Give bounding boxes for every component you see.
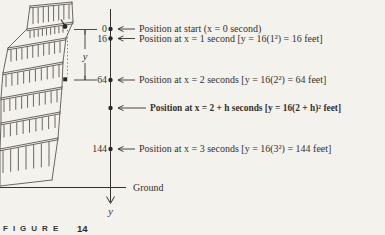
pointer-arrow-icon — [118, 36, 135, 41]
tower-stroke — [63, 38, 66, 62]
tower-stroke — [1, 114, 60, 125]
position-dot — [108, 106, 112, 110]
annotation-text: Position at x = 2 + h seconds [y = 16(2 … — [150, 103, 341, 114]
figure-caption-label: FIGURE — [3, 224, 63, 233]
tower-stroke — [60, 87, 62, 112]
tower-stroke — [3, 48, 8, 73]
tick-label: 16 — [97, 33, 107, 44]
position-dot — [108, 147, 112, 151]
y-axis-label: y — [107, 206, 113, 217]
pointer-arrow-icon — [118, 105, 146, 110]
position-dot — [108, 27, 112, 31]
fall-distance-label: y — [82, 51, 88, 62]
tower-stroke — [58, 112, 60, 138]
tower-stroke — [52, 138, 58, 180]
tower-stroke — [62, 62, 63, 87]
tower-stroke — [0, 180, 52, 186]
position-annotation-row: Position at x = 2 + h seconds [y = 16(2 … — [108, 103, 341, 114]
annotation-text: Position at x = 3 seconds [y = 16(3²) = … — [139, 143, 331, 155]
object-at-top-dot — [63, 24, 68, 29]
pointer-arrow-icon — [118, 26, 135, 31]
position-annotation-row: 64 Position at x = 2 seconds [y = 16(2²)… — [97, 74, 326, 86]
figure-caption-number: 14 — [77, 223, 88, 234]
position-annotation-row: 144 Position at x = 3 seconds [y = 16(3²… — [92, 143, 331, 155]
pointer-arrow-icon — [118, 146, 135, 151]
fall-diagram: y y Ground 0 Position at start (x = 0 se… — [0, 0, 385, 235]
figure-canvas: y y Ground 0 Position at start (x = 0 se… — [0, 0, 385, 235]
tower-stroke — [0, 123, 1, 149]
tick-label: 64 — [97, 74, 107, 85]
tower-stroke — [3, 62, 63, 73]
object-position-marker — [63, 77, 67, 81]
pointer-arrow-icon — [118, 77, 135, 82]
position-annotation-row: 16 Position at x = 1 second [y = 16(1²) … — [97, 33, 322, 45]
tower-stroke — [1, 73, 3, 98]
tower-stroke — [1, 112, 60, 123]
position-dot — [108, 78, 112, 82]
annotation-text: Position at x = 2 seconds [y = 16(2²) = … — [139, 74, 326, 86]
tower-stroke — [72, 2, 73, 22]
ground-label: Ground — [133, 182, 164, 193]
tower-stroke — [3, 64, 63, 75]
annotation-text: Position at x = 1 second [y = 16(1²) = 1… — [139, 33, 323, 45]
leaning-tower-illustration — [0, 2, 73, 186]
tower-stroke — [1, 87, 62, 98]
tower-stroke — [8, 40, 66, 50]
tower-stroke — [1, 89, 62, 100]
tick-label: 144 — [92, 143, 107, 154]
position-dot — [108, 36, 112, 40]
tower-stroke — [27, 6, 30, 29]
